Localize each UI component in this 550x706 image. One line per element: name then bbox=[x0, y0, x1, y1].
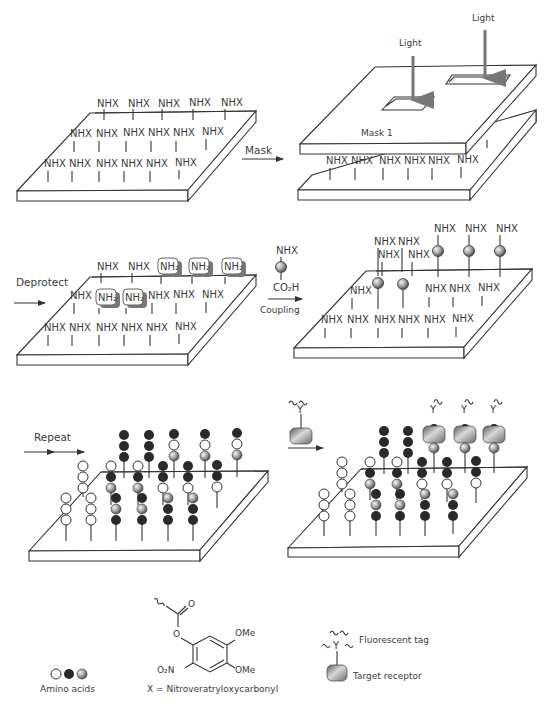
svg-text:NHX: NHX bbox=[398, 236, 420, 247]
substrate-top bbox=[17, 111, 256, 191]
svg-text:OMe: OMe bbox=[235, 665, 256, 675]
svg-text:NHX: NHX bbox=[374, 314, 396, 325]
svg-text:NHX: NHX bbox=[478, 282, 500, 293]
svg-text:NHX: NHX bbox=[189, 97, 211, 108]
svg-text:NHX: NHX bbox=[97, 98, 119, 109]
nvoc-definition: X = Nitroveratryloxycarbonyl bbox=[147, 684, 278, 694]
svg-text:O: O bbox=[188, 599, 195, 609]
receptor-step: Y bbox=[288, 401, 323, 448]
amino-acid-gray-icon bbox=[77, 669, 87, 679]
mask-step-arrow: Mask bbox=[242, 144, 283, 159]
reagent-nhx: NHX bbox=[276, 245, 298, 256]
svg-text:OMe: OMe bbox=[235, 628, 256, 638]
amino-acid-bead bbox=[276, 262, 287, 273]
deprotect-step-arrow: Deprotect bbox=[14, 276, 68, 303]
amino-acid-black-icon bbox=[64, 669, 74, 679]
svg-text:Y: Y bbox=[429, 404, 437, 415]
mask-name: Mask 1 bbox=[361, 128, 393, 138]
svg-text:NHX: NHX bbox=[351, 155, 373, 166]
svg-text:NHX: NHX bbox=[148, 127, 170, 138]
svg-text:NHX: NHX bbox=[96, 322, 118, 333]
svg-text:NHX: NHX bbox=[379, 155, 401, 166]
svg-text:NHX: NHX bbox=[496, 223, 518, 234]
svg-text:NHX: NHX bbox=[428, 155, 450, 166]
svg-text:NHX: NHX bbox=[128, 261, 150, 272]
mask-label: Mask bbox=[245, 144, 273, 156]
svg-text:NHX: NHX bbox=[404, 155, 426, 166]
svg-text:NH₂: NH₂ bbox=[191, 261, 210, 272]
svg-text:NHX: NHX bbox=[347, 314, 369, 325]
svg-text:NHX: NHX bbox=[97, 261, 119, 272]
svg-text:NHX: NHX bbox=[424, 314, 446, 325]
svg-text:NHX: NHX bbox=[158, 98, 180, 109]
svg-text:NHX: NHX bbox=[148, 290, 170, 301]
svg-text:NHX: NHX bbox=[146, 322, 168, 333]
panel-coupled: NHX NHX NHX NHX NHX NHX NHX NHX NHX NHX … bbox=[294, 223, 532, 358]
svg-text:NHX: NHX bbox=[173, 289, 195, 300]
legend-receptor: Y Fluorescent tag Target receptor bbox=[322, 631, 429, 681]
legend-amino-acids: Amino acids bbox=[40, 669, 95, 694]
svg-text:Y: Y bbox=[460, 404, 468, 415]
svg-text:NHX: NHX bbox=[321, 314, 343, 325]
panel-deprotected: NHX NHX NH₂ NH₂ NH₂ NHX NH₂ bbox=[17, 258, 256, 365]
svg-text:NHX: NHX bbox=[202, 126, 224, 137]
panel-substrate bbox=[17, 111, 256, 201]
svg-text:NHX: NHX bbox=[449, 283, 471, 294]
svg-text:NHX: NHX bbox=[350, 285, 372, 296]
repeat-label: Repeat bbox=[34, 431, 71, 443]
svg-text:NHX: NHX bbox=[408, 249, 430, 260]
panel-receptor-bound: Y Y Y bbox=[288, 400, 527, 558]
target-receptor-icon bbox=[327, 665, 347, 681]
mask-window-2 bbox=[446, 75, 510, 84]
svg-text:NHX: NHX bbox=[70, 128, 92, 139]
svg-text:O: O bbox=[173, 629, 180, 639]
amino-acids-label: Amino acids bbox=[40, 684, 95, 694]
panel-peptide-array bbox=[29, 428, 268, 561]
svg-text:NH₂: NH₂ bbox=[224, 261, 243, 272]
svg-text:NHX: NHX bbox=[374, 236, 396, 247]
svg-text:NHX: NHX bbox=[128, 98, 150, 109]
svg-text:NHX: NHX bbox=[398, 314, 420, 325]
fluorescent-tag-icon: Y bbox=[332, 640, 340, 651]
svg-text:NHX: NHX bbox=[457, 154, 479, 165]
light-label-1: Light bbox=[399, 38, 422, 48]
legend-nvoc-structure: O O OMe OMe O₂N X = Nitroveratryloxycarb… bbox=[147, 598, 278, 694]
repeat-step-arrow: Repeat bbox=[24, 431, 84, 452]
svg-text:NHX: NHX bbox=[202, 289, 224, 300]
deprotect-label: Deprotect bbox=[16, 276, 68, 288]
svg-text:Y: Y bbox=[296, 404, 304, 415]
svg-text:NHX: NHX bbox=[378, 249, 400, 260]
svg-text:NHX: NHX bbox=[175, 157, 197, 168]
svg-text:NHX: NHX bbox=[70, 290, 92, 301]
svg-text:NHX: NHX bbox=[96, 128, 118, 139]
amino-acid-white-icon bbox=[51, 669, 61, 679]
svg-text:NHX: NHX bbox=[173, 127, 195, 138]
svg-text:NHX: NHX bbox=[96, 158, 118, 169]
svg-text:NHX: NHX bbox=[69, 322, 91, 333]
svg-text:NHX: NHX bbox=[69, 158, 91, 169]
substrate-front bbox=[17, 190, 188, 201]
svg-text:NHX: NHX bbox=[146, 158, 168, 169]
coupling-label: Coupling bbox=[260, 305, 300, 315]
svg-text:NHX: NHX bbox=[434, 223, 456, 234]
svg-text:NHX: NHX bbox=[121, 322, 143, 333]
svg-text:NHX: NHX bbox=[44, 322, 66, 333]
panel-mask: Mask 1 Light Light NHX NHX NHX NHX NHX N… bbox=[298, 13, 536, 200]
target-receptor-shape bbox=[290, 428, 312, 444]
target-receptor-label: Target receptor bbox=[352, 671, 422, 681]
svg-text:NHX: NHX bbox=[123, 127, 145, 138]
svg-text:NH₂: NH₂ bbox=[98, 292, 117, 303]
fluorescent-tag-label: Fluorescent tag bbox=[359, 635, 429, 645]
svg-text:NH₂: NH₂ bbox=[160, 261, 179, 272]
svg-text:NH₂: NH₂ bbox=[125, 292, 144, 303]
svg-text:NHX: NHX bbox=[465, 223, 487, 234]
svg-text:O₂N: O₂N bbox=[157, 665, 174, 675]
svg-text:NHX: NHX bbox=[221, 97, 243, 108]
coupling-step: NHX CO₂H Coupling bbox=[260, 245, 302, 315]
svg-text:NHX: NHX bbox=[452, 313, 474, 324]
svg-text:NHX: NHX bbox=[121, 158, 143, 169]
bound-receptor: Y bbox=[483, 400, 505, 474]
svg-text:NHX: NHX bbox=[44, 158, 66, 169]
svg-text:NHX: NHX bbox=[326, 155, 348, 166]
svg-text:Y: Y bbox=[489, 404, 497, 415]
